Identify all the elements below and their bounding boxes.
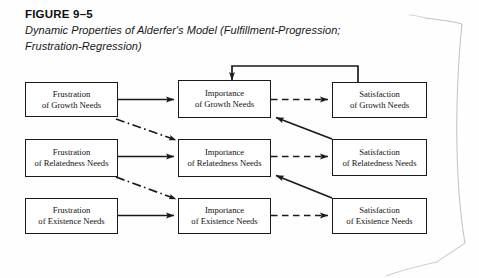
node-line-2: of Growth Needs [195, 99, 254, 110]
edge-satisfaction-existence-to-importance-relatedness [276, 176, 332, 199]
node-frustration-growth: Frustration of Growth Needs [25, 82, 118, 117]
edge-frustration-relatedness-to-importance-existence [116, 177, 176, 199]
diagram: Frustration of Growth Needs Importance o… [0, 0, 479, 278]
node-line-1: Satisfaction [359, 147, 400, 158]
node-satisfaction-relatedness: Satisfaction of Relatedness Needs [332, 139, 427, 176]
edge-satisfaction-relatedness-to-importance-growth [276, 118, 332, 140]
node-importance-growth: Importance of Growth Needs [178, 80, 271, 118]
node-frustration-existence: Frustration of Existence Needs [25, 198, 118, 234]
node-importance-relatedness: Importance of Relatedness Needs [178, 139, 271, 177]
node-line-1: Satisfaction [359, 89, 400, 100]
node-line-1: Frustration [53, 205, 91, 216]
edge-frustration-growth-to-importance-relatedness [116, 119, 176, 140]
node-line-1: Satisfaction [359, 205, 400, 216]
node-frustration-relatedness: Frustration of Relatedness Needs [25, 139, 118, 177]
node-line-1: Importance [205, 205, 244, 216]
node-satisfaction-growth: Satisfaction of Growth Needs [332, 82, 427, 118]
node-line-1: Frustration [53, 147, 91, 158]
node-satisfaction-existence: Satisfaction of Existence Needs [332, 198, 427, 234]
node-line-1: Frustration [53, 89, 91, 100]
node-line-2: of Existence Needs [346, 216, 412, 227]
node-line-1: Importance [205, 147, 244, 158]
node-line-2: of Growth Needs [42, 100, 101, 111]
node-line-2: of Relatedness Needs [188, 158, 262, 169]
node-line-2: of Relatedness Needs [35, 158, 109, 169]
node-line-2: of Growth Needs [350, 100, 409, 111]
node-line-2: of Existence Needs [38, 216, 104, 227]
node-line-1: Importance [205, 88, 244, 99]
node-importance-existence: Importance of Existence Needs [178, 198, 271, 234]
node-line-2: of Existence Needs [191, 216, 257, 227]
figure-page: FIGURE 9–5 Dynamic Properties of Alderfe… [0, 0, 479, 278]
node-line-2: of Relatedness Needs [343, 158, 417, 169]
